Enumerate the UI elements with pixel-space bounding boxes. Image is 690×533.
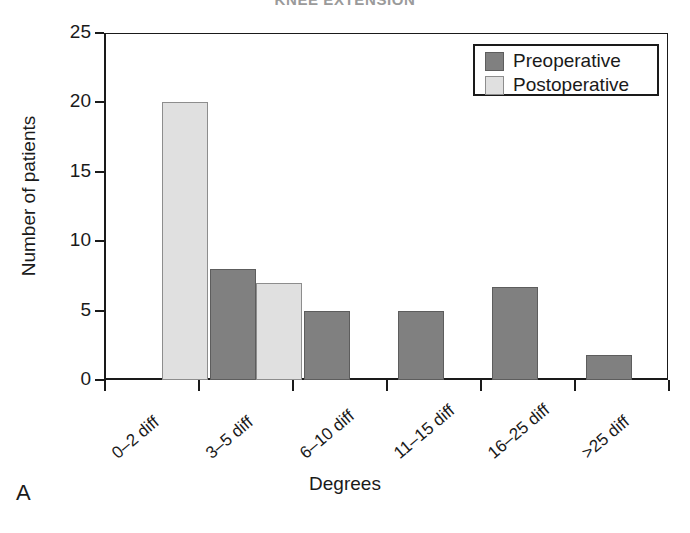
y-tick-label: 5 xyxy=(80,300,91,320)
panel-letter: A xyxy=(16,480,31,506)
bar-preoperative xyxy=(304,311,350,380)
x-axis-tick-labels: 0–2 diff3–5 diff6–10 diff11–15 diff16–25… xyxy=(0,380,690,460)
chart-legend: PreoperativePostoperative xyxy=(473,44,659,96)
x-tick-label: 6–10 diff xyxy=(296,406,359,463)
x-tick-label: 3–5 diff xyxy=(202,412,257,463)
y-tick-mark xyxy=(95,101,104,103)
legend-entry: Preoperative xyxy=(485,49,657,73)
x-tick-label: 16–25 diff xyxy=(484,400,554,463)
y-tick-label: 20 xyxy=(70,91,91,111)
y-tick-mark xyxy=(95,171,104,173)
y-tick-mark xyxy=(95,310,104,312)
bar-preoperative xyxy=(586,355,632,380)
y-tick-label: 25 xyxy=(70,22,91,42)
legend-label: Preoperative xyxy=(513,51,621,71)
y-axis-title: Number of patients xyxy=(18,71,40,321)
legend-entry: Postoperative xyxy=(485,73,657,97)
y-tick-label: 15 xyxy=(70,161,91,181)
bar-preoperative xyxy=(398,311,444,380)
legend-label: Postoperative xyxy=(513,75,629,95)
legend-swatch-pre xyxy=(485,52,504,71)
x-axis-title: Degrees xyxy=(0,473,690,495)
y-tick-mark xyxy=(95,240,104,242)
x-tick-label: 11–15 diff xyxy=(390,401,459,463)
legend-swatch-post xyxy=(485,76,504,95)
bar-postoperative xyxy=(256,283,302,380)
y-tick-mark xyxy=(95,32,104,34)
x-tick-label: 0–2 diff xyxy=(108,412,163,463)
bar-preoperative xyxy=(210,269,256,380)
bar-postoperative xyxy=(162,102,208,380)
figure-panel-a: KNEE EXTENSION 0510152025 Number of pati… xyxy=(0,0,690,533)
x-tick-label: >25 diff xyxy=(578,412,634,463)
y-tick-label: 10 xyxy=(70,230,91,250)
bar-preoperative xyxy=(492,287,538,380)
